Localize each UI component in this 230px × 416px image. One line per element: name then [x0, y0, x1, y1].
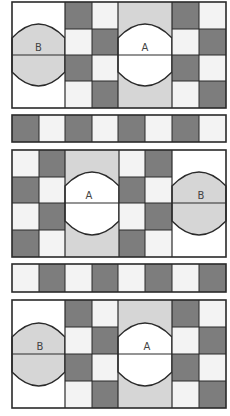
- block-b: B: [172, 150, 226, 257]
- checker-block: [119, 150, 172, 257]
- panel-3: B A: [12, 300, 226, 408]
- block-a: A: [65, 150, 119, 257]
- strip-1: [12, 115, 226, 142]
- checker-block: [172, 2, 226, 108]
- checker-block: [12, 150, 65, 257]
- block-b: B: [12, 300, 65, 408]
- label-b: B: [198, 190, 205, 201]
- block-a: A: [118, 2, 172, 108]
- checker-block: [65, 2, 118, 108]
- label-a: A: [142, 42, 149, 53]
- panel-1: B A: [12, 2, 226, 108]
- label-b: B: [37, 341, 44, 352]
- checker-block: [172, 300, 226, 408]
- label-a: A: [86, 190, 93, 201]
- block-b: B: [12, 2, 65, 108]
- block-a: A: [118, 300, 172, 408]
- checker-block: [65, 300, 118, 408]
- quilt-diagram: B A: [0, 0, 230, 416]
- label-b: B: [35, 42, 42, 53]
- panel-2: A B: [12, 150, 226, 257]
- label-a: A: [144, 341, 151, 352]
- strip-2: [12, 264, 226, 292]
